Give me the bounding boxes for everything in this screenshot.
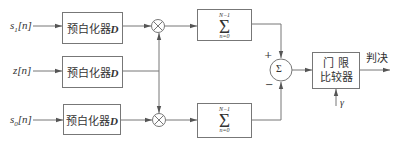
input-s0-label: s0[n] <box>10 114 32 128</box>
prewhitener-box-z: 预白化器D <box>62 56 123 88</box>
decision-output-label: 判决 <box>366 53 388 64</box>
prewhitener-label: 预白化器 <box>67 67 111 80</box>
prewhitener-label: 预白化器 <box>66 115 110 128</box>
prewhitener-symbol: D <box>111 23 119 35</box>
adder-minus-sign: − <box>265 80 273 90</box>
adder-sigma-icon: Σ <box>276 64 282 74</box>
prewhitener-label: 预白化器 <box>67 23 111 36</box>
prewhitener-symbol: D <box>111 67 119 79</box>
summation-lower-limit: n=0 <box>198 127 251 133</box>
summation-box-bottom: N−1 Σ n=0 <box>197 103 252 138</box>
summation-box-top: N−1 Σ n=0 <box>197 9 252 41</box>
prewhitener-box-s0: 预白化器D <box>63 104 121 135</box>
threshold-gamma-label: γ <box>340 98 344 108</box>
adder-plus-sign: + <box>264 50 272 60</box>
threshold-comparator-box: 门 限 比较器 <box>312 52 360 89</box>
input-s1-label: s1[n] <box>10 20 32 34</box>
input-z-label: z[n] <box>13 65 31 76</box>
prewhitener-box-s1: 预白化器D <box>62 12 123 44</box>
comparator-label-line2: 比较器 <box>313 71 359 84</box>
summation-lower-limit: n=0 <box>198 33 251 39</box>
prewhitener-symbol: D <box>110 115 118 127</box>
comparator-label-line1: 门 限 <box>313 57 359 70</box>
